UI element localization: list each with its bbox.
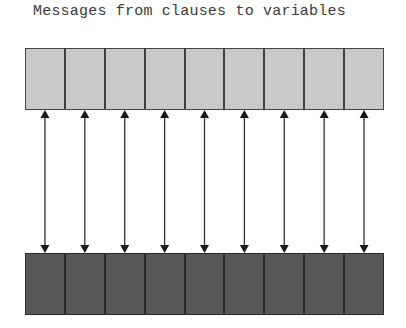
clause-cell [303, 49, 343, 109]
clause-row [25, 48, 384, 110]
clause-cell [144, 49, 184, 109]
variable-cell [303, 254, 343, 314]
clause-cell [223, 49, 263, 109]
variable-cell [184, 254, 224, 314]
double-arrow-icon [40, 110, 49, 253]
variable-cell [64, 254, 104, 314]
variable-row [25, 253, 384, 315]
variable-cell [343, 254, 383, 314]
double-arrow-icon [200, 110, 209, 253]
clause-cell [64, 49, 104, 109]
double-arrow-icon [360, 110, 369, 253]
clause-cell [184, 49, 224, 109]
double-arrow-icon [80, 110, 89, 253]
clause-cell [343, 49, 383, 109]
variable-cell [223, 254, 263, 314]
double-arrow-icon [240, 110, 249, 253]
variable-cell [104, 254, 144, 314]
variable-cell [263, 254, 303, 314]
clause-cell [263, 49, 303, 109]
variable-cell [144, 254, 184, 314]
double-arrow-icon [280, 110, 289, 253]
clause-cell [26, 49, 64, 109]
double-arrow-icon [160, 110, 169, 253]
double-arrow-icon [120, 110, 129, 253]
double-arrow-icon [320, 110, 329, 253]
clause-cell [104, 49, 144, 109]
variable-cell [26, 254, 64, 314]
diagram-title: Messages from clauses to variables [33, 3, 346, 20]
